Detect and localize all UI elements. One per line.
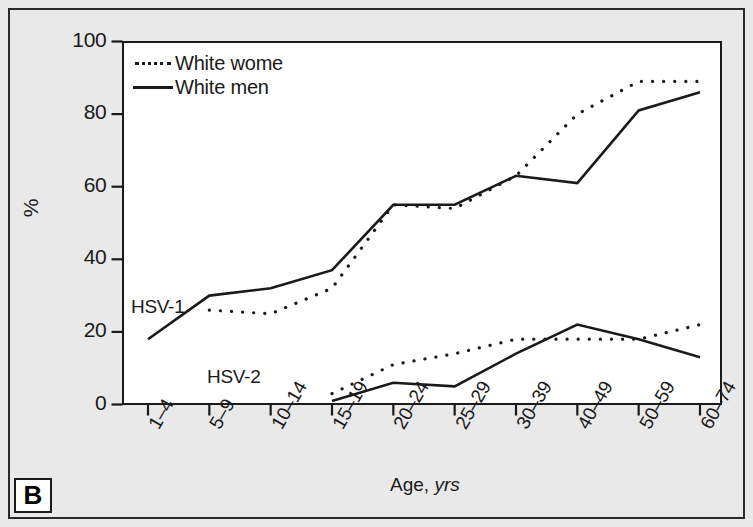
legend-item-white-men: White men (133, 75, 283, 99)
x-axis-label-main: Age, (390, 474, 429, 495)
annotation-hsv-2: HSV-2 (207, 366, 260, 388)
y-tick-label: 80 (84, 100, 107, 124)
legend-label-white-men: White men (175, 76, 269, 99)
legend-item-white-women: White wome (133, 51, 283, 75)
panel-label-b: B (14, 478, 52, 513)
y-axis-label: % (19, 199, 43, 218)
dotted-line-icon (133, 56, 175, 70)
annotation-hsv-1: HSV-1 (131, 296, 184, 318)
y-tick-label: 60 (84, 173, 107, 197)
x-axis-label: Age, yrs (390, 474, 460, 496)
y-tick-label: 100 (72, 28, 106, 52)
figure-panel-b: 020406080100 1–45–910–1415–1920–2425–293… (0, 0, 753, 527)
y-tick-label: 40 (84, 245, 107, 269)
solid-line-icon (133, 80, 175, 94)
x-axis-label-unit: yrs (434, 474, 459, 495)
y-tick-label: 20 (84, 318, 107, 342)
y-tick-label: 0 (95, 391, 106, 415)
legend: White wome White men (133, 51, 283, 99)
legend-label-white-women: White wome (175, 52, 283, 75)
